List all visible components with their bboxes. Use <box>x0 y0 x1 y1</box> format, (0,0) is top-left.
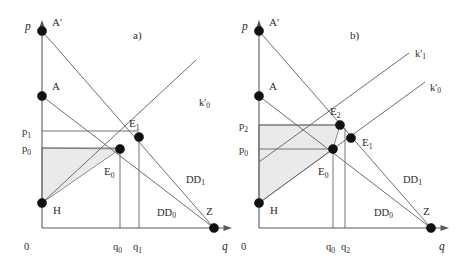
point-a-b <box>254 91 263 100</box>
y-axis-label-a: p <box>24 20 31 33</box>
point-e2-b <box>335 120 344 129</box>
x-axis-arrow-b <box>441 225 450 231</box>
label-e0-b: E0 <box>318 165 329 180</box>
point-e0-b <box>328 144 337 153</box>
label-dd0-b: DD0 <box>374 207 393 220</box>
label-z-b: Z <box>423 205 430 217</box>
tick-p0-a: p0 <box>22 143 31 157</box>
label-h-a: H <box>53 204 61 216</box>
label-e0-a: E0 <box>104 165 115 180</box>
economics-supply-demand-figure: p q 0 a) p1 p0 q0 q1 A' A H E1 E0 Z DD1 … <box>0 0 468 270</box>
panel-label-b: b) <box>350 29 360 42</box>
x-axis-arrow-a <box>224 225 233 231</box>
y-axis-label-b: p <box>241 20 248 33</box>
point-h-a <box>37 198 46 207</box>
tick-p2-b: p2 <box>239 120 248 134</box>
tick-p0-b: p0 <box>239 144 248 158</box>
label-dd1-b: DD1 <box>403 174 422 187</box>
point-e1-b <box>346 133 355 142</box>
label-a-b: A <box>269 80 277 92</box>
label-dd0-a: DD0 <box>157 207 176 220</box>
panel-a: p q 0 a) p1 p0 q0 q1 A' A H E1 E0 Z DD1 … <box>0 0 234 270</box>
point-e0-a <box>115 144 124 153</box>
origin-label-a: 0 <box>24 241 29 252</box>
point-a-a <box>37 91 46 100</box>
tick-p1-a: p1 <box>22 126 31 140</box>
curve-dd1-a <box>42 31 214 228</box>
tick-q2-b: q2 <box>341 241 350 255</box>
point-z-a <box>209 223 218 232</box>
point-a-prime-b <box>254 26 263 35</box>
panel-label-a: a) <box>133 29 142 42</box>
origin-label-b: 0 <box>241 241 246 252</box>
label-e1-a: E1 <box>129 117 140 132</box>
label-h-b: H <box>270 204 278 216</box>
label-a-prime-a: A' <box>52 16 62 28</box>
label-a-a: A <box>52 80 60 92</box>
label-k-prime-0-a: k'0 <box>199 97 210 110</box>
point-h-b <box>254 198 263 207</box>
x-axis-label-b: q <box>439 240 445 253</box>
label-a-prime-b: A' <box>269 16 279 28</box>
x-axis-label-a: q <box>222 240 228 253</box>
point-e1-a <box>134 132 143 141</box>
label-e1-b: E1 <box>362 136 373 151</box>
point-a-prime-a <box>37 26 46 35</box>
point-z-b <box>426 223 435 232</box>
tick-q0-a: q0 <box>113 241 122 255</box>
label-k-prime-0-b: k'0 <box>430 82 441 95</box>
tick-q0-b: q0 <box>326 241 335 255</box>
panel-b: p q 0 b) p2 p0 q0 q2 A' A H E2 E1 E0 Z D… <box>234 0 468 270</box>
label-z-a: Z <box>206 205 213 217</box>
label-k-prime-1-b: k'1 <box>415 48 426 61</box>
label-dd1-a: DD1 <box>186 174 205 187</box>
label-e2-b: E2 <box>330 105 341 120</box>
shaded-surplus-region-b <box>259 125 340 203</box>
tick-q1-a: q1 <box>133 241 142 255</box>
